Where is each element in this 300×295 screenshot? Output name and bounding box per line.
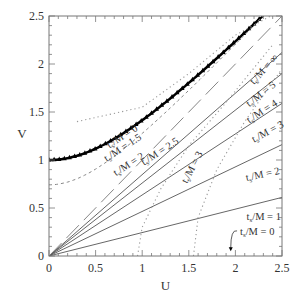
series-2 [49,145,282,256]
label-t2: ts/M = 2 [245,165,281,185]
arrowhead-icon [229,247,233,251]
x-tick-label: 0 [46,261,52,275]
y-tick-label: 2 [38,57,44,71]
label-ts2.5: ts/M = 2.5 [139,135,181,169]
y-tick-label: 1.5 [29,105,44,119]
x-tick-label: 1 [139,261,145,275]
y-tick-label: 0.5 [29,201,44,215]
label-tinf: ts/M = ∞ [247,52,281,88]
series-0 [49,0,280,160]
x-tick-label: 1.5 [181,261,196,275]
label-ts0-annotation: ts/M = 0 [240,226,274,239]
x-tick-label: 2 [232,261,238,275]
x-tick-label: 0.5 [88,261,103,275]
y-axis-label: V [17,126,27,141]
y-tick-label: 1 [38,153,44,167]
series-7 [49,0,280,185]
y-tick-label: 2.5 [29,9,44,23]
annotation-arrow [231,231,237,249]
kruskal-diagram-chart: 00.511.522.500.511.522.5UV ts/M = 0ts/M … [0,0,300,295]
x-axis-label: U [161,278,171,293]
series-8 [77,16,271,122]
x-tick-label: 2.5 [275,261,290,275]
label-t1: ts/M = 1 [247,211,281,224]
y-tick-label: 0 [38,249,44,263]
annotations: ts/M = 0ts/M = 1.5ts/M = 2ts/M = 2.5ts/M… [102,52,286,251]
triangle-marker-icon [262,11,267,16]
